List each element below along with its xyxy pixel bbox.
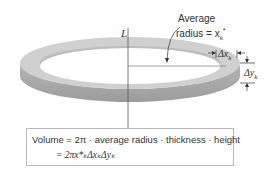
- formula-line-1: Volume = 2π · average radius · thickness…: [32, 134, 240, 145]
- dy-label: Δyk: [244, 67, 257, 83]
- dy-text: Δy: [244, 67, 254, 78]
- dx-text: Δx: [218, 48, 228, 59]
- average-label: Average: [178, 13, 215, 24]
- radius-sub: k: [220, 34, 223, 42]
- dy-sub: k: [254, 73, 257, 81]
- axis-label: L: [121, 28, 127, 39]
- radius-text: radius = x: [176, 28, 220, 39]
- dx-label: Δxk: [218, 48, 231, 64]
- radius-sup: *: [223, 27, 226, 34]
- radius-label: radius = xk*: [176, 25, 225, 44]
- formula-line-2: = 2πx*ₖΔxₖΔyₖ: [56, 149, 115, 160]
- formula-box: Volume = 2π · average radius · thickness…: [26, 128, 234, 166]
- dx-sub: k: [228, 54, 231, 62]
